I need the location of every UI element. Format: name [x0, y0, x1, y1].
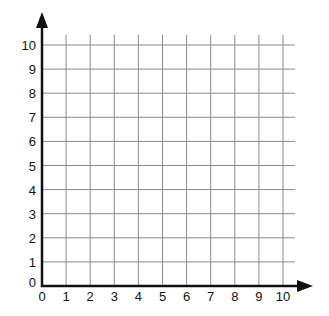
- x-tick-label: 2: [87, 289, 94, 304]
- y-tick-label: 3: [29, 207, 36, 222]
- y-axis-arrow-icon: [36, 12, 48, 28]
- y-tick-label: 0: [29, 275, 36, 290]
- y-tick-label: 2: [29, 231, 36, 246]
- y-tick-labels: 012345678910: [22, 38, 36, 290]
- x-tick-labels: 012345678910: [38, 289, 290, 304]
- y-tick-label: 8: [29, 86, 36, 101]
- y-tick-label: 1: [29, 255, 36, 270]
- y-tick-label: 7: [29, 110, 36, 125]
- x-tick-label: 10: [276, 289, 290, 304]
- y-tick-label: 4: [29, 183, 36, 198]
- x-tick-label: 6: [183, 289, 190, 304]
- y-tick-label: 5: [29, 159, 36, 174]
- x-tick-label: 5: [159, 289, 166, 304]
- x-axis-arrow-icon: [297, 280, 313, 292]
- y-tick-label: 9: [29, 62, 36, 77]
- x-tick-label: 1: [62, 289, 69, 304]
- x-tick-label: 8: [231, 289, 238, 304]
- x-tick-label: 9: [255, 289, 262, 304]
- x-tick-label: 0: [38, 289, 45, 304]
- x-tick-label: 7: [207, 289, 214, 304]
- y-tick-label: 10: [22, 38, 36, 53]
- axes: [36, 12, 313, 292]
- y-tick-label: 6: [29, 134, 36, 149]
- gridlines: [42, 35, 295, 286]
- x-tick-label: 4: [135, 289, 142, 304]
- x-tick-label: 3: [111, 289, 118, 304]
- coordinate-plane: 012345678910 012345678910: [0, 0, 329, 316]
